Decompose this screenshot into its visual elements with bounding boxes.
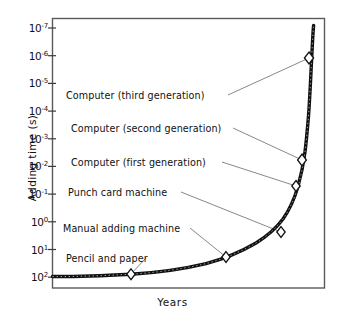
y-tick-label-1e1: 101 [14,244,48,256]
annotation-label-first-generation: Computer (first generation) [71,157,206,168]
y-axis-title: Adding time (s) [26,98,38,218]
y-tick-label-1e-5: 10-5 [14,77,48,89]
y-tick-label-1e-6: 10-6 [14,50,48,62]
annotation-label-punch-card: Punch card machine [68,187,167,198]
annotation-label-manual-adding: Manual adding machine [63,223,180,234]
x-axis-title: Years [0,296,345,308]
plot-frame [53,19,325,289]
chart-figure: 10-7 10-6 10-5 10-4 10-3 10-2 10-1 100 1… [0,0,345,319]
annotation-label-second-generation: Computer (second generation) [71,123,221,134]
annotation-label-third-generation: Computer (third generation) [66,90,205,101]
annotation-label-pencil-paper: Pencil and paper [66,253,148,264]
y-tick-label-1e-7: 10-7 [14,22,48,34]
y-tick-label-1e2: 102 [14,271,48,283]
